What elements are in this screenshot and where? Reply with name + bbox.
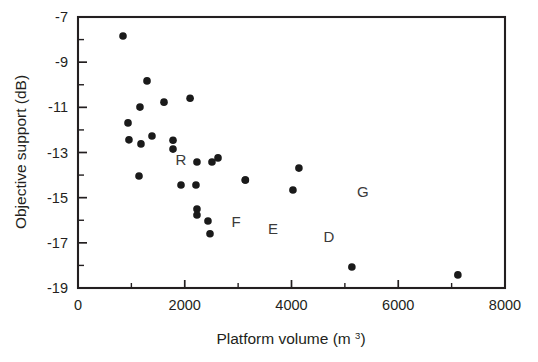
data-point xyxy=(193,211,201,219)
data-point xyxy=(214,154,222,162)
x-axis-title: Platform volume (m 3) xyxy=(216,330,365,347)
point-annotations: RFEDG xyxy=(176,151,369,245)
y-axis-tick-labels: -7-9-11-13-15-17-19 xyxy=(47,9,68,296)
data-point xyxy=(160,98,168,106)
x-tick-label: 6000 xyxy=(382,297,414,313)
annotation-label-d: D xyxy=(324,228,335,245)
data-point xyxy=(143,77,151,85)
data-point xyxy=(289,186,297,194)
annotation-label-e: E xyxy=(268,220,278,237)
x-axis-tick-labels: 02000400060008000 xyxy=(74,297,521,313)
y-axis-ticks xyxy=(78,17,87,288)
x-tick-label: 2000 xyxy=(169,297,201,313)
x-tick-label: 4000 xyxy=(275,297,307,313)
data-point xyxy=(186,95,194,103)
annotation-label-r: R xyxy=(176,151,187,168)
y-tick-label: -13 xyxy=(47,145,68,161)
y-tick-label: -17 xyxy=(47,235,68,251)
data-point xyxy=(454,271,462,279)
x-axis-ticks xyxy=(78,280,505,288)
y-tick-label: -7 xyxy=(55,9,68,25)
annotation-label-g: G xyxy=(357,183,369,200)
data-point xyxy=(125,136,133,144)
data-point xyxy=(193,158,201,166)
data-point xyxy=(137,140,145,148)
x-tick-label: 8000 xyxy=(489,297,521,313)
y-tick-label: -15 xyxy=(47,190,68,206)
data-point xyxy=(148,132,156,140)
plot-frame xyxy=(78,17,505,288)
annotation-label-f: F xyxy=(231,213,240,230)
data-point xyxy=(204,217,212,225)
data-point xyxy=(124,119,132,127)
data-point xyxy=(169,137,177,145)
data-point xyxy=(136,103,144,111)
data-point xyxy=(295,164,303,172)
y-tick-label: -19 xyxy=(47,280,68,296)
x-tick-label: 0 xyxy=(74,297,82,313)
y-tick-label: -9 xyxy=(55,54,68,70)
data-point xyxy=(206,230,214,238)
chart-figure: -7-9-11-13-15-17-19 02000400060008000 RF… xyxy=(0,0,538,362)
data-points xyxy=(119,32,461,279)
y-axis-title: Objective support (dB) xyxy=(12,75,29,229)
data-point xyxy=(348,263,356,271)
y-tick-label: -11 xyxy=(48,99,68,115)
data-point xyxy=(242,176,250,184)
data-point xyxy=(135,172,143,180)
data-point xyxy=(119,32,127,40)
data-point xyxy=(192,181,200,189)
data-point xyxy=(177,181,185,189)
scatter-plot-svg: -7-9-11-13-15-17-19 02000400060008000 RF… xyxy=(0,0,538,362)
